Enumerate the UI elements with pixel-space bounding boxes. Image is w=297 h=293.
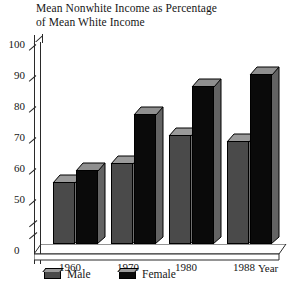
bar-front [76, 170, 98, 244]
bar-1980-male [169, 135, 191, 244]
bar-1970-female [134, 114, 156, 244]
bar-front [169, 135, 191, 244]
bar-side [155, 107, 163, 244]
legend-label-male: Male [67, 268, 91, 280]
bars-layer [0, 30, 297, 265]
bar-1960-female [76, 170, 98, 244]
legend-item-male: Male [44, 268, 91, 280]
chart-title-line-2: of Mean White Income [36, 16, 286, 30]
chart-title-line-1: Mean Nonwhite Income as Percentage [36, 2, 286, 16]
bar-1970-male [111, 163, 133, 244]
legend-item-female: Female [119, 268, 176, 280]
bar-side [97, 163, 105, 244]
bar-front [227, 141, 249, 244]
legend-swatch-top [117, 268, 138, 272]
legend-swatch-top [42, 268, 63, 272]
bar-side [271, 67, 279, 244]
bar-1988-female [250, 74, 272, 244]
legend-label-female: Female [142, 268, 176, 280]
bar-front [53, 182, 75, 244]
bar-front [134, 114, 156, 244]
bar-front [111, 163, 133, 244]
chart-legend: Male Female [0, 268, 297, 290]
bar-front [192, 86, 214, 244]
plot-area: 100 90 80 70 60 50 0 [0, 30, 297, 265]
bar-front [250, 74, 272, 244]
bar-1980-female [192, 86, 214, 244]
bar-1988-male [227, 141, 249, 244]
bar-1960-male [53, 182, 75, 244]
legend-swatch-male [44, 271, 61, 279]
legend-swatch-female [119, 271, 136, 279]
x-axis-floor [34, 244, 285, 254]
bar-side [213, 79, 221, 244]
chart-title: Mean Nonwhite Income as Percentage of Me… [36, 2, 286, 29]
chart-figure: Mean Nonwhite Income as Percentage of Me… [0, 0, 297, 293]
